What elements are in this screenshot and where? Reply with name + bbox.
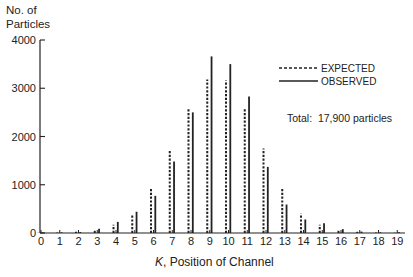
y-tick-label: 2000 [12, 131, 36, 143]
x-tick-label: 13 [279, 235, 291, 247]
legend: EXPECTED OBSERVED [279, 63, 376, 87]
x-axis-title: K, Position of Channel [155, 255, 274, 269]
x-tick-label: 12 [260, 235, 272, 247]
chart: No. of Particles 01000200030004000 01234… [0, 0, 413, 277]
x-tick-label: 18 [372, 235, 384, 247]
y-tick-label: 3000 [12, 82, 36, 94]
y-tick-label: 0 [30, 227, 36, 239]
x-tick-label: 11 [242, 235, 253, 247]
x-tick-label: 1 [57, 235, 63, 247]
y-tick-label: 4000 [12, 34, 36, 46]
x-tick-label: 0 [38, 235, 44, 247]
x-tick-label: 8 [188, 235, 194, 247]
x-tick-label: 3 [94, 235, 100, 247]
x-tick-label: 10 [222, 235, 234, 247]
legend-observed-label: OBSERVED [321, 76, 376, 87]
legend-expected-label: EXPECTED [321, 63, 375, 74]
x-tick-label: 6 [150, 235, 156, 247]
x-tick-label: 19 [391, 235, 403, 247]
x-tick-label: 5 [132, 235, 138, 247]
x-tick-label: 16 [335, 235, 347, 247]
total-annotation: Total: 17,900 particles [287, 112, 392, 124]
y-axis-title-line1: No. of [6, 4, 37, 16]
x-tick-label: 14 [297, 235, 309, 247]
x-tick-label: 17 [354, 235, 366, 247]
y-tick-label: 1000 [12, 179, 36, 191]
x-tick-label: 2 [75, 235, 81, 247]
x-axis-title-rest: , Position of Channel [163, 255, 274, 269]
x-tick-label: 9 [207, 235, 213, 247]
y-axis-title-line2: Particles [6, 18, 50, 30]
x-tick-label: 15 [316, 235, 328, 247]
x-tick-label: 7 [169, 235, 175, 247]
x-tick-label: 4 [113, 235, 119, 247]
